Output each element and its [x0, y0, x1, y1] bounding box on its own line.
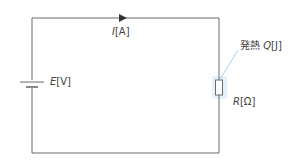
- wire-bottom: [32, 88, 219, 153]
- heat-unit: [J]: [271, 40, 282, 51]
- resistance-label: R[Ω]: [233, 97, 255, 107]
- resistor-symbol: [216, 80, 223, 95]
- heat-leader-line: [219, 50, 238, 81]
- emf-unit: [V]: [56, 76, 71, 87]
- current-unit: [A]: [115, 26, 130, 37]
- current-label: I[A]: [112, 27, 130, 37]
- circuit-drawing: [0, 0, 307, 164]
- heat-label: 発熱 Q[J]: [240, 41, 282, 51]
- heat-prefix: 発熱: [240, 40, 260, 51]
- resistance-unit: [Ω]: [240, 96, 255, 107]
- emf-label: E[V]: [50, 77, 71, 87]
- circuit-diagram: I[A] E[V] 発熱 Q[J] R[Ω]: [0, 0, 307, 164]
- current-arrow-icon: [119, 14, 127, 22]
- resistance-symbol: R: [233, 96, 240, 107]
- heat-symbol: Q: [263, 40, 271, 51]
